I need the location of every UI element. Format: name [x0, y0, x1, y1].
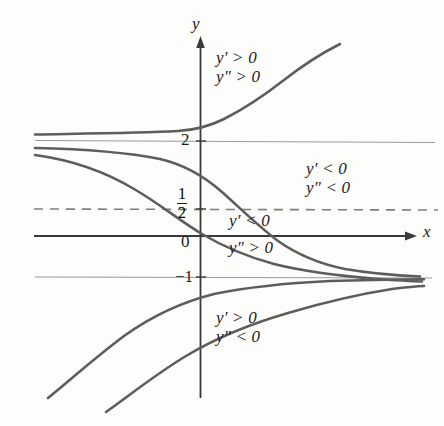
- region-label-center-above-axis: y′ < 0: [229, 211, 270, 230]
- fraction-numerator: 1: [176, 186, 188, 203]
- region-label-center-below-axis: y″ > 0: [229, 238, 273, 257]
- solution-curve-above-2: [35, 44, 340, 135]
- region-label-top-left-line1: y′ > 0: [216, 48, 260, 67]
- region-label-top-left-line2: y″ > 0: [216, 67, 260, 86]
- figure-canvas: y x 2 0 −1 1 2 y′ > 0 y″ > 0 y′ < 0 y″ <…: [0, 0, 444, 426]
- asymptote-line-yhalf-dashed: [34, 209, 438, 210]
- tick-label-minus-1: −1: [175, 267, 193, 286]
- region-label-bottom: y′ > 0 y″ < 0: [216, 308, 260, 346]
- region-label-right-middle-line1: y′ < 0: [306, 159, 350, 178]
- y-axis-label: y: [192, 14, 200, 33]
- y-axis-arrowhead: [196, 36, 205, 48]
- tick-label-one-half: 1 2: [176, 186, 188, 221]
- region-label-right-middle: y′ < 0 y″ < 0: [306, 159, 350, 197]
- tick-label-0: 0: [181, 232, 190, 251]
- region-label-bottom-line1: y′ > 0: [216, 308, 260, 327]
- region-label-center-above-axis-line1: y′ < 0: [229, 211, 270, 230]
- x-axis-label: x: [423, 222, 431, 241]
- region-label-bottom-line2: y″ < 0: [216, 327, 260, 346]
- fraction-denominator: 2: [176, 204, 188, 221]
- x-axis-arrowhead: [405, 232, 417, 241]
- region-label-center-below-axis-line1: y″ > 0: [229, 238, 273, 257]
- solution-curve-sigmoid-upper: [35, 148, 420, 277]
- tick-label-2: 2: [181, 130, 190, 149]
- region-label-top-left: y′ > 0 y″ > 0: [216, 48, 260, 86]
- asymptote-line-y2: [35, 141, 435, 143]
- region-label-right-middle-line2: y″ < 0: [306, 178, 350, 197]
- solution-curve-below-minus1-b: [106, 286, 424, 412]
